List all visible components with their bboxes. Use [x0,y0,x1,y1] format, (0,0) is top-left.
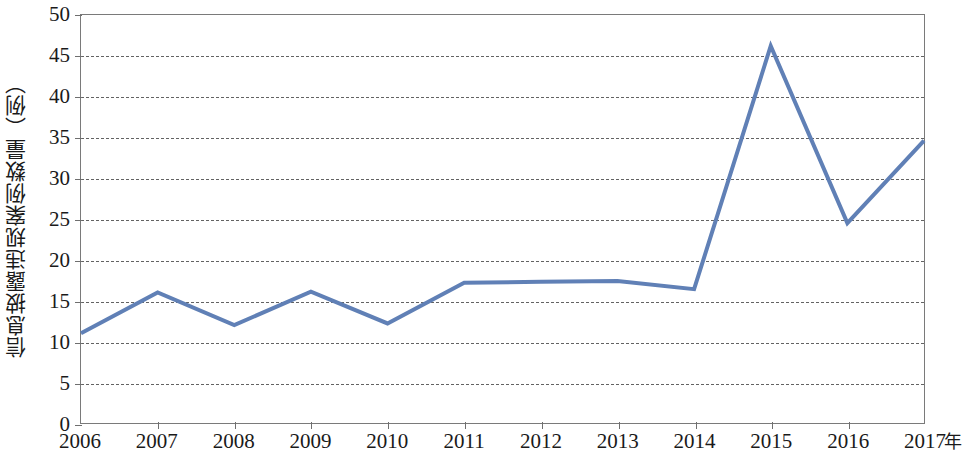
y-tick-label: 25 [49,209,70,230]
x-tick-label: 2013 [597,426,639,456]
y-tick-label: 35 [49,127,70,148]
x-tick-label: 2006 [59,426,101,456]
x-tick-label: 2009 [289,426,331,456]
x-tick-label: 2014 [674,426,716,456]
y-tick-label: 30 [49,168,70,189]
x-tick-label: 2012 [520,426,562,456]
x-tick-label: 2011 [443,426,484,456]
series-line-information-disclosure-violations [81,46,924,333]
y-tick-label: 10 [49,332,70,353]
x-axis-tick-labels: 年 20062007200820092010201120122013201420… [0,426,975,458]
x-axis-unit-label: 年 [944,426,962,458]
y-axis-tick-labels: 05101520253035404550 [34,0,76,458]
x-tick-label: 2015 [750,426,792,456]
y-tick-label: 15 [49,291,70,312]
y-tick-label: 50 [49,4,70,25]
y-tick-label: 45 [49,45,70,66]
y-tick-label: 40 [49,86,70,107]
y-axis-title-text: 信息披露违规案例数量（例） [2,72,32,358]
x-tick-label: 2017 [904,426,946,456]
line-chart: 信息披露违规案例数量（例） 05101520253035404550 年 200… [0,0,975,458]
x-tick-label: 2010 [366,426,408,456]
x-tick-label: 2016 [827,426,869,456]
x-tick-label: 2007 [136,426,178,456]
y-axis-title: 信息披露违规案例数量（例） [0,0,34,430]
x-tick-label: 2008 [213,426,255,456]
data-series-layer [81,15,924,423]
y-tick-label: 20 [49,250,70,271]
y-tick-label: 5 [60,373,71,394]
plot-area [80,14,925,424]
